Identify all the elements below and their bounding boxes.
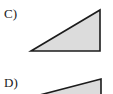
answer-choice-c: C) xyxy=(0,0,113,57)
choice-d-triangle-polygon xyxy=(32,79,101,94)
choice-d-label: D) xyxy=(4,76,18,89)
answer-choice-d: D) xyxy=(0,57,113,94)
choice-c-label: C) xyxy=(4,7,17,20)
choice-c-triangle-icon xyxy=(27,6,105,56)
answer-choices-figure: C) D) xyxy=(0,0,113,94)
choice-d-triangle-icon xyxy=(29,75,106,94)
choice-c-triangle-polygon xyxy=(31,10,100,51)
